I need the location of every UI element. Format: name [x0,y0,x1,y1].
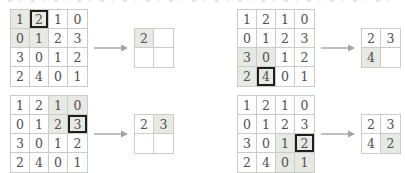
arrow-right-icon [321,129,355,139]
input-cell: 0 [276,153,295,172]
input-cell: 3 [11,48,30,67]
input-cell: 2 [257,10,276,29]
input-cell: 0 [11,115,30,134]
input-cell: 2 [238,153,257,172]
input-cell: 1 [49,48,68,67]
input-cell: 2 [295,134,314,153]
input-cell: 4 [257,67,276,86]
input-cell: 0 [257,134,276,153]
output-cell: 4 [362,134,381,153]
input-cell: 1 [276,48,295,67]
input-cell: 2 [30,96,49,115]
input-matrix: 1210012330122401 [10,9,88,87]
input-cell: 2 [276,115,295,134]
input-cell: 0 [49,153,68,172]
input-cell: 1 [238,96,257,115]
input-cell: 4 [257,153,276,172]
input-cell: 3 [238,48,257,67]
input-matrix: 1210012330122401 [10,95,88,173]
input-cell: 1 [276,96,295,115]
input-cell: 2 [276,29,295,48]
input-cell: 0 [295,96,314,115]
input-cell: 0 [68,10,87,29]
output-cell [381,48,400,67]
output-cell [154,29,173,48]
input-cell: 1 [276,10,295,29]
output-cell: 2 [135,115,154,134]
input-cell: 3 [68,29,87,48]
input-cell: 2 [49,115,68,134]
arrow-right-icon [94,43,128,53]
input-cell: 1 [295,153,314,172]
input-cell: 1 [257,29,276,48]
input-cell: 1 [30,115,49,134]
output-cell [154,134,173,153]
output-matrix: 2 [134,28,174,68]
input-cell: 0 [238,115,257,134]
output-matrix: 23 [134,114,174,154]
input-cell: 0 [30,48,49,67]
input-cell: 1 [49,96,68,115]
input-cell: 2 [11,153,30,172]
input-cell: 2 [238,67,257,86]
pooling-example-bottom-left: 1210012330122401 23 [10,95,174,173]
pooling-example-top-left: 1210012330122401 2 [10,9,174,87]
input-cell: 3 [295,29,314,48]
input-cell: 2 [68,134,87,153]
input-cell: 0 [238,29,257,48]
input-cell: 2 [49,29,68,48]
pooling-example-top-right: 1210012330122401 234 [237,9,401,87]
input-cell: 0 [11,29,30,48]
input-cell: 1 [238,10,257,29]
output-cell: 2 [362,115,381,134]
input-cell: 1 [11,96,30,115]
output-matrix: 2342 [361,114,401,154]
max-pooling-figure: 1210012330122401 2 1210012330122401 234 … [0,0,405,173]
arrow-right-icon [94,129,128,139]
output-cell: 2 [381,134,400,153]
input-cell: 1 [68,153,87,172]
input-cell: 0 [276,67,295,86]
input-cell: 0 [68,96,87,115]
output-cell: 3 [154,115,173,134]
input-cell: 2 [295,48,314,67]
output-matrix: 234 [361,28,401,68]
input-cell: 1 [11,10,30,29]
input-matrix: 1210012330122401 [237,9,315,87]
clipped-text-artifact [8,0,394,2]
input-cell: 0 [30,134,49,153]
input-cell: 0 [295,10,314,29]
output-cell: 2 [362,29,381,48]
input-cell: 3 [68,115,87,134]
pooling-example-bottom-right: 1210012330122401 2342 [237,95,401,173]
input-cell: 1 [276,134,295,153]
input-cell: 2 [11,67,30,86]
input-cell: 1 [49,134,68,153]
output-cell: 3 [381,115,400,134]
input-cell: 1 [30,29,49,48]
input-matrix: 1210012330122401 [237,95,315,173]
output-cell: 2 [135,29,154,48]
input-cell: 0 [49,67,68,86]
input-cell: 1 [49,10,68,29]
output-cell [154,48,173,67]
output-cell [135,134,154,153]
output-cell: 3 [381,29,400,48]
input-cell: 3 [295,115,314,134]
input-cell: 0 [257,48,276,67]
input-cell: 1 [68,67,87,86]
output-cell: 4 [362,48,381,67]
input-cell: 2 [68,48,87,67]
input-cell: 4 [30,67,49,86]
input-cell: 3 [238,134,257,153]
input-cell: 2 [30,10,49,29]
output-cell [135,48,154,67]
input-cell: 3 [11,134,30,153]
arrow-right-icon [321,43,355,53]
input-cell: 1 [295,67,314,86]
input-cell: 2 [257,96,276,115]
input-cell: 1 [257,115,276,134]
input-cell: 4 [30,153,49,172]
